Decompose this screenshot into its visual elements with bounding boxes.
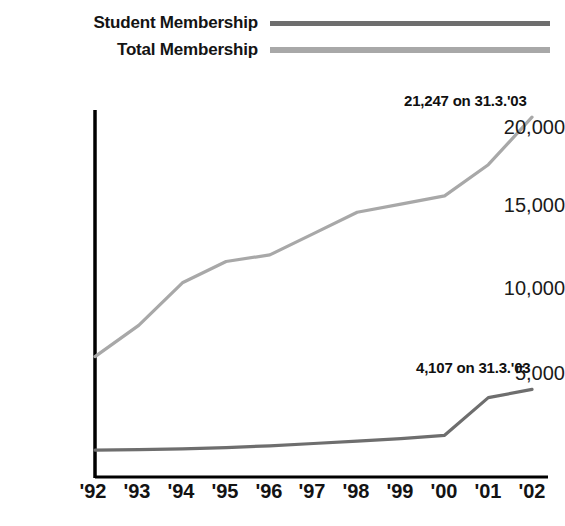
- annotation-student-membership: 4,107 on 31.3.'03: [416, 359, 530, 376]
- x-axis-tick-93: '93: [115, 480, 159, 502]
- x-axis-tick-92: '92: [71, 480, 115, 502]
- membership-line-chart: Student Membership Total Membership 20,0…: [0, 0, 565, 526]
- x-axis-tick-97: '97: [290, 480, 334, 502]
- y-axis-tick-15000: 15,000: [487, 195, 565, 215]
- x-axis-tick-00: '00: [422, 480, 466, 502]
- y-axis-tick-20000: 20,000: [487, 117, 565, 137]
- x-axis-tick-99: '99: [378, 480, 422, 502]
- x-axis-tick-98: '98: [334, 480, 378, 502]
- series-line-total-membership: [95, 117, 532, 356]
- y-axis-tick-10000: 10,000: [487, 278, 565, 298]
- annotation-total-membership: 21,247 on 31.3.'03: [404, 92, 527, 109]
- plot-area: 20,000 15,000 10,000 5,000 '92 '93 '94 '…: [0, 0, 565, 526]
- series-line-student-membership: [95, 389, 532, 450]
- x-axis-tick-02: '02: [510, 480, 554, 502]
- x-axis-tick-95: '95: [203, 480, 247, 502]
- plot-canvas: [0, 0, 565, 526]
- x-axis-tick-01: '01: [466, 480, 510, 502]
- x-axis-tick-94: '94: [159, 480, 203, 502]
- x-axis-tick-96: '96: [247, 480, 291, 502]
